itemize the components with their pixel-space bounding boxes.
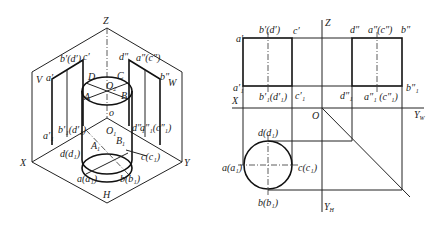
label-D: D (87, 71, 96, 82)
label-yw: YW (414, 109, 426, 121)
label-B: B (121, 90, 127, 101)
miter-line (322, 108, 410, 197)
label-sv-d: d″ (350, 24, 360, 35)
label-h-c: c(c₁) (141, 151, 161, 163)
label-fv-a: a′ (236, 33, 244, 44)
label-h: H (102, 189, 111, 200)
label-v-a1: a′₁ (43, 130, 54, 141)
label-tv-a: a(a₁) (222, 162, 243, 174)
label-h-d: d(d₁) (60, 148, 81, 160)
label-x: X (231, 95, 239, 106)
label-sv-d1: d″₁ (340, 90, 353, 101)
label-v: V (36, 74, 44, 85)
orthographic-view: Z X O YW YH a′ b′(d′) c′ a′₁ b′₁(d′₁) c′… (222, 17, 426, 213)
label-z: Z (325, 17, 331, 28)
label-fv-bd: b′(d′) (259, 24, 281, 36)
label-w-ac1: a″₁(c″₁) (140, 122, 172, 134)
label-x: X (19, 157, 27, 168)
label-C: C (117, 70, 124, 81)
label-o: O (312, 110, 319, 121)
label-O1: O1 (106, 125, 116, 137)
label-tv-d: d(d₁) (258, 127, 279, 139)
label-yh: YH (324, 201, 335, 213)
label-v-bd1: b′₁(d′₁) (58, 124, 87, 136)
front-view-rect (243, 38, 292, 86)
label-O2: O2 (106, 80, 116, 92)
label-A1: A1 (90, 140, 100, 152)
label-o: o (109, 107, 114, 118)
label-h-b: b(b₁) (120, 173, 141, 185)
label-w-d: d″ (119, 51, 129, 62)
label-v-bd: b′(d′) (60, 53, 82, 65)
projection-diagram: Z X Y H V W o D C A B O2 O1 A1 B1 a′ b′(… (0, 0, 444, 227)
label-tv-b: b(b₁) (258, 197, 279, 209)
label-sv-b1: b″₁ (406, 82, 419, 93)
label-A: A (83, 91, 91, 102)
label-fv-bd1: b′₁(d′₁) (259, 91, 288, 103)
label-w-ac: a″(c″) (136, 52, 161, 64)
label-w: W (168, 77, 178, 88)
label-fv-a1: a′₁ (233, 82, 244, 93)
label-v-a: a′ (46, 72, 54, 83)
label-sv-ac: a″(c″) (368, 24, 393, 36)
label-B1: B1 (116, 135, 125, 147)
label-h-a: a(a₁) (77, 173, 98, 185)
label-v-c: c′ (83, 51, 90, 62)
isometric-view: Z X Y H V W o D C A B O2 O1 A1 B1 a′ b′(… (19, 15, 191, 203)
label-tv-c: c(c₁) (298, 162, 318, 174)
label-y: Y (184, 157, 191, 168)
label-w-b: b″ (160, 71, 170, 82)
label-sv-ac1: a″₁ (c″₁) (364, 91, 399, 103)
label-fv-c1: c′₁ (295, 90, 305, 101)
label-z: Z (103, 15, 109, 26)
label-fv-c: c′ (293, 25, 300, 36)
label-sv-b: b″ (401, 24, 411, 35)
